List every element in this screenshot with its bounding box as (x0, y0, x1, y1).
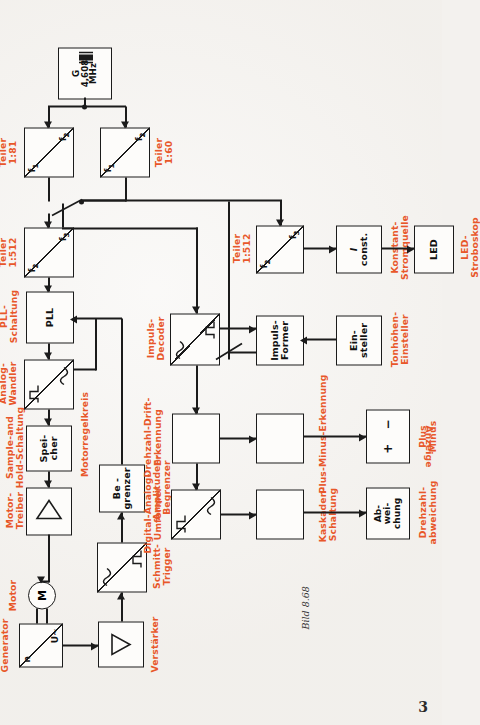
block-pll: PLL (26, 291, 74, 343)
block-da-wandler (24, 359, 74, 409)
arrow-into-pll-left (44, 285, 52, 292)
wire-to-decoder (196, 257, 198, 291)
wire-begrenzer-right (121, 318, 123, 464)
label-teiler-81: Teiler 1:81 (0, 125, 18, 179)
label-pll-schaltung: PLL- Schaltung (0, 285, 19, 347)
arrow-into-led (407, 245, 414, 253)
block-einsteller: Ein- steller (336, 315, 382, 365)
arrow-into-pm-display (359, 433, 366, 441)
label-sample-and-hold: Sample-and Hold-Schaltung (5, 405, 25, 489)
arrow-into-umformer (192, 483, 200, 490)
amplifier-triangle-icon (27, 488, 71, 534)
arrow-into-dawandler (44, 352, 52, 359)
teiler512b-top: f2 (259, 259, 272, 268)
label-verstaerker: Verstärker (150, 611, 160, 677)
sine-wave-icon (174, 339, 186, 359)
teiler81-bottom: f2 (58, 132, 71, 141)
block-begrenzer: Be - grenzer (99, 464, 145, 512)
label-impuls-decoder: Impuls- Decoder (146, 307, 166, 369)
block-teiler-512-b: f2 f3 (256, 225, 304, 273)
arrow-into-pll-bottom (70, 315, 77, 323)
block-teiler-81: f1 f2 (24, 127, 74, 177)
former-switch-icon[interactable] (212, 331, 250, 369)
label-anzeige: Anzeige (424, 411, 434, 481)
label-led-stroboskop: LED- Stroboskop (460, 209, 480, 285)
wire-osc-bus (48, 105, 126, 107)
symbol-motor: M (28, 581, 56, 609)
arrow-into-speicher (44, 418, 52, 425)
block-da-umformer (171, 489, 221, 539)
square-wave-icon (28, 383, 40, 403)
wire-pm-to-display (304, 435, 366, 437)
amplifier-triangle-icon (99, 622, 143, 666)
wire-begrenzer-riser (74, 317, 122, 319)
label-drehzahlabweichung: Drehzahl- abweichung (418, 471, 438, 553)
block-frequenz-generator: n U~ (19, 623, 63, 667)
block-verstaerker (98, 621, 144, 667)
arrow-into-verstaerker (91, 642, 98, 650)
block-impuls-former: Impuls- Former (256, 315, 304, 365)
label-da-wandler: Digital- Analog- Wandler (0, 353, 17, 413)
figure-caption: Bild 8.68 (300, 586, 311, 629)
junction-osc (82, 104, 87, 109)
arrow-into-teiler60 (121, 121, 129, 128)
shaft-line-a (36, 608, 38, 623)
square-wave-icon (175, 513, 187, 533)
arrow-into-begrenzer (117, 512, 125, 519)
arrow-into-teiler512a (44, 221, 52, 228)
label-teiler-60: Teiler 1:60 (154, 125, 174, 179)
arrow-into-schmitt (117, 592, 125, 599)
shaft-line-b (46, 608, 48, 623)
label-motor: Motor (8, 575, 18, 615)
block-plus-minus-display: + − (366, 409, 410, 463)
arrow-into-drift (192, 407, 200, 414)
wire-former-fb-h (228, 201, 230, 359)
block-abweichung-display: Ab- wei- chung (366, 487, 410, 539)
arrow-into-kaskade (249, 511, 256, 519)
block-teiler-60: f1 f2 (100, 127, 150, 177)
teiler81-top: f1 (27, 163, 40, 172)
block-oszillator: G 4,608 MHz (58, 47, 112, 99)
block-motor-treiber (26, 487, 72, 535)
fg-n-label: n (22, 656, 32, 662)
wire-teiler512a-in2 (62, 203, 64, 227)
arrow-into-stromquelle (329, 245, 336, 253)
wire-treiber-riser (41, 580, 49, 582)
wire-dawandler-feedback (74, 368, 96, 370)
page-number: 3 (418, 699, 428, 715)
teiler512b-bottom: f3 (288, 230, 301, 239)
wire-teiler512a-down-v (62, 227, 198, 229)
wire-kaskade-to-abweichung (304, 511, 366, 513)
arrow-into-teiler512b (276, 219, 284, 226)
block-plus-minus-erkennung (256, 413, 304, 463)
quartz-crystal-icon (76, 50, 96, 64)
arrow-into-treiber (44, 480, 52, 487)
label-frequenz-generator: Frequenz- Generator (0, 611, 10, 679)
block-konstant-stromquelle: I const. (336, 225, 382, 273)
fg-u-label: U~ (50, 628, 60, 643)
block-drehzahl-drift-erkennung (172, 413, 220, 463)
arrow-into-pm (249, 435, 256, 443)
block-schmitt-trigger (97, 542, 147, 592)
arrow-into-former-bottom (300, 336, 307, 344)
wire-teiler512a-down-h (196, 227, 198, 259)
label-teiler-512-b: Teiler 1:512 (232, 221, 252, 275)
arrow-into-abweichung (359, 509, 366, 517)
label-motorregelkreis: Motorregelkreis (80, 379, 90, 489)
label-teiler-512-a: Teiler 1:512 (0, 225, 18, 279)
teiler512a-bottom: f3 (58, 232, 71, 241)
block-teiler-512-a: f2 f3 (24, 227, 74, 277)
block-speicher: Spei- cher (26, 425, 72, 471)
arrow-into-former-top (249, 325, 256, 333)
wire-decoder-in (196, 289, 198, 313)
label-motor-treiber: Motor- Treiber (5, 484, 25, 536)
sine-wave-icon (58, 365, 70, 385)
sine-wave-icon (205, 495, 217, 515)
teiler60-top: f1 (103, 163, 116, 172)
teiler512a-top: f2 (27, 263, 40, 272)
wire-einsteller-to-former (304, 338, 336, 340)
arrow-into-teiler81 (44, 121, 52, 128)
wire-chain-down (82, 199, 280, 201)
